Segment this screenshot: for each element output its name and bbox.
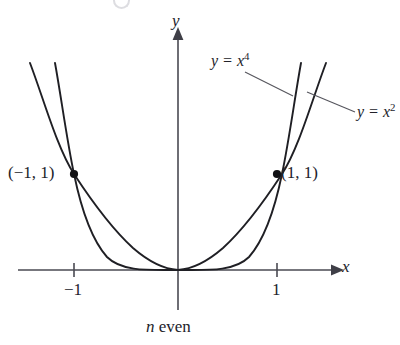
point-marker-right — [273, 170, 281, 178]
plot-canvas — [0, 0, 400, 345]
figure-caption: n even — [146, 318, 191, 335]
curve-label-quadratic-exponent: 2 — [390, 101, 395, 113]
x-tick-label-one: 1 — [272, 281, 281, 298]
leader-line-quartic — [245, 72, 293, 96]
point-marker-left — [70, 170, 78, 178]
figure-graph-even-powers: y x −1 1 (−1, 1) (1, 1) y = x4 y = x2 n … — [0, 0, 400, 345]
curve-label-quadratic-text: y = x — [357, 103, 390, 120]
x-tick-label-negative-one: −1 — [64, 281, 82, 298]
curve-label-quartic-text: y = x — [211, 52, 244, 69]
curve-label-quadratic: y = x2 — [357, 104, 395, 120]
intersection-markers — [70, 170, 281, 178]
caption-variable: n — [146, 317, 155, 336]
curve-label-quartic-exponent: 4 — [244, 50, 249, 62]
point-label-right-intersection: (1, 1) — [281, 164, 318, 181]
y-axis — [173, 27, 184, 310]
y-axis-label: y — [172, 12, 180, 29]
caption-text: even — [155, 317, 191, 336]
curve-label-quartic: y = x4 — [211, 53, 249, 69]
x-axis-label: x — [342, 258, 350, 275]
leader-lines — [245, 72, 355, 112]
point-label-left-intersection: (−1, 1) — [8, 164, 54, 181]
leader-line-quadratic — [307, 92, 355, 112]
